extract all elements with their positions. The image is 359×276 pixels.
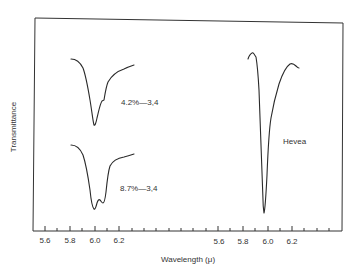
annotation-8-7-percent: 8.7%—3,4	[120, 184, 158, 193]
ir-spectra-chart: 5.6 5.8 6.0 6.2 5.6 5.8 6.0 6.2 Waveleng…	[0, 0, 359, 276]
tick-label: 5.8	[237, 237, 249, 246]
tick-label: 5.6	[213, 237, 225, 246]
x-axis-ticks	[45, 226, 329, 231]
tick-label: 5.8	[64, 236, 76, 245]
tick-label: 6.2	[286, 237, 298, 246]
plot-frame	[33, 18, 343, 231]
left-tick-labels: 5.6 5.8 6.0 6.2	[39, 236, 125, 245]
curve-8-7-percent	[71, 145, 134, 209]
right-tick-labels: 5.6 5.8 6.0 6.2	[213, 237, 298, 246]
tick-label: 5.6	[39, 236, 51, 245]
tick-label: 6.2	[113, 236, 125, 245]
x-axis-title: Wavelength (μ)	[161, 255, 215, 264]
y-axis-title: Transmittance	[9, 101, 18, 152]
tick-label: 6.0	[262, 237, 274, 246]
curve-4-2-percent	[71, 59, 134, 125]
annotation-hevea: Hevea	[283, 137, 307, 146]
annotation-4-2-percent: 4.2%—3,4	[121, 98, 159, 107]
curve-hevea	[248, 53, 299, 213]
tick-label: 6.0	[89, 236, 101, 245]
